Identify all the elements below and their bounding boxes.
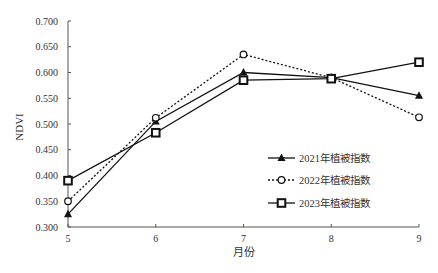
y-tick-label: 0.550 — [36, 93, 59, 104]
x-axis-label: 月份 — [233, 246, 255, 258]
y-tick-label: 0.300 — [36, 222, 59, 233]
square-marker — [64, 177, 72, 185]
triangle-marker — [240, 68, 248, 76]
circle-marker — [65, 198, 72, 205]
y-tick-label: 0.700 — [36, 16, 59, 27]
y-tick-label: 0.650 — [36, 41, 59, 52]
x-tick-label: 7 — [241, 233, 246, 244]
axes: 0.3000.3500.4000.4500.5000.5500.6000.650… — [36, 16, 422, 245]
triangle-icon — [278, 154, 286, 162]
circle-marker — [152, 115, 159, 122]
y-tick-label: 0.600 — [36, 67, 59, 78]
legend-item: 2023年植被指数 — [268, 197, 371, 209]
series-line — [68, 73, 419, 215]
circle-marker — [416, 114, 423, 121]
square-marker — [240, 76, 248, 84]
x-tick-label: 6 — [153, 233, 158, 244]
circle-open-icon — [278, 177, 285, 184]
y-tick-label: 0.450 — [36, 144, 59, 155]
y-axis-label: NDVI — [13, 113, 25, 141]
chart-canvas: 0.3000.3500.4000.4500.5000.5500.6000.650… — [0, 0, 438, 273]
legend-label: 2022年植被指数 — [299, 174, 371, 186]
x-tick-label: 8 — [329, 233, 334, 244]
square-marker — [152, 129, 160, 137]
x-tick-label: 5 — [66, 233, 71, 244]
x-tick-label: 9 — [417, 233, 422, 244]
square-marker — [415, 58, 423, 66]
series-1 — [64, 68, 423, 217]
y-tick-label: 0.350 — [36, 196, 59, 207]
y-tick-label: 0.500 — [36, 119, 59, 130]
square-marker — [327, 75, 335, 83]
series-group — [64, 51, 423, 217]
legend: 2021年植被指数2022年植被指数2023年植被指数 — [268, 152, 371, 209]
legend-item: 2021年植被指数 — [268, 152, 371, 164]
square-open-icon — [278, 199, 286, 207]
y-tick-label: 0.400 — [36, 170, 59, 181]
legend-item: 2022年植被指数 — [268, 174, 371, 186]
circle-marker — [240, 51, 247, 58]
series-3 — [64, 58, 423, 184]
ndvi-line-chart: 0.3000.3500.4000.4500.5000.5500.6000.650… — [0, 0, 438, 273]
legend-label: 2021年植被指数 — [299, 152, 371, 164]
legend-label: 2023年植被指数 — [299, 197, 371, 209]
